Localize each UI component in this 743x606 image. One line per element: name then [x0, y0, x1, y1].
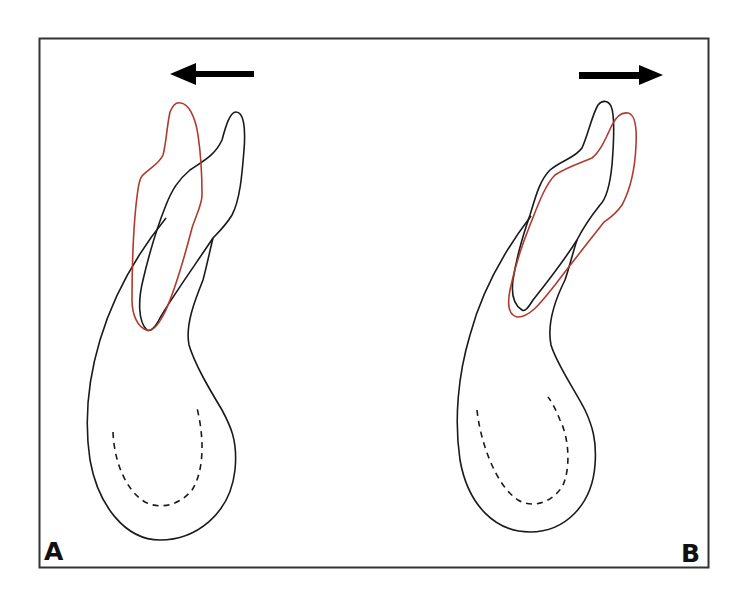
- pulp-dashed-line-a: [113, 408, 202, 506]
- pulp-dashed-line-b: [477, 397, 568, 504]
- panel-a: [87, 63, 254, 540]
- original-crown-labial-b: [457, 216, 595, 532]
- arrow-left-icon: [170, 63, 254, 85]
- figure-canvas: [0, 0, 743, 606]
- original-root-outline-b: [512, 101, 613, 310]
- panel-b: [457, 65, 663, 532]
- arrow-right-icon: [579, 65, 663, 85]
- original-crown-labial: [87, 218, 235, 540]
- panel-label-b: B: [681, 541, 700, 566]
- moved-root-outline-red: [132, 103, 202, 331]
- panel-label-a: A: [44, 539, 63, 564]
- moved-root-outline-red-b: [509, 113, 637, 317]
- original-root-outline: [140, 112, 245, 331]
- tooth-movement-figure: A B: [0, 0, 743, 606]
